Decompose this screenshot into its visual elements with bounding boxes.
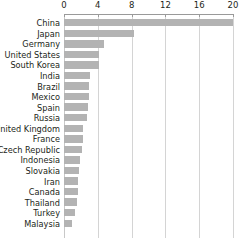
bar-row: Canada [0, 187, 240, 198]
bar [64, 19, 233, 26]
bar-row: Russia [0, 113, 240, 124]
plot-area: ChinaJapanGermanyUnited StatesSouth Kore… [0, 15, 240, 243]
bar [64, 114, 87, 121]
bar [64, 61, 99, 68]
bar [64, 82, 89, 89]
bar-row: Turkey [0, 208, 240, 219]
bar-row: Iran [0, 176, 240, 187]
bar-row: Germany [0, 39, 240, 50]
bar [64, 188, 78, 195]
category-label: Japan [37, 29, 60, 38]
bar-row: Japan [0, 29, 240, 40]
x-axis-tick-mark [64, 14, 65, 17]
category-label: Russia [34, 114, 60, 123]
bar [64, 167, 79, 174]
bar-row: Slovakia [0, 166, 240, 177]
bar [64, 125, 83, 132]
bar-row: Mexico [0, 92, 240, 103]
category-label: China [37, 19, 60, 28]
category-label: South Korea [10, 61, 60, 70]
category-label: Malaysia [24, 219, 60, 228]
x-axis-tick-label: 20 [228, 0, 239, 10]
x-axis-tick-mark [98, 14, 99, 17]
bar [64, 156, 80, 163]
category-label: Iran [44, 177, 60, 186]
category-label: France [33, 135, 60, 144]
x-axis-tick-mark [132, 14, 133, 17]
x-axis-tick-label: 0 [61, 0, 66, 10]
bar-row: China [0, 18, 240, 29]
x-axis-tick-label: 8 [129, 0, 134, 10]
bar-row: Indonesia [0, 155, 240, 166]
category-label: Canada [29, 188, 60, 197]
bar-row: United States [0, 50, 240, 61]
category-label: Indonesia [20, 156, 60, 165]
x-axis-tick-mark [233, 14, 234, 17]
category-label: Turkey [33, 209, 60, 218]
x-axis-tick-mark [199, 14, 200, 17]
bar-row: South Korea [0, 60, 240, 71]
bar [64, 103, 88, 110]
bar [64, 30, 134, 37]
bar [64, 72, 90, 79]
x-axis-tick-label: 4 [95, 0, 100, 10]
category-label: Mexico [31, 93, 60, 102]
x-axis-tick-mark [165, 14, 166, 17]
bar [64, 220, 72, 227]
bar [64, 209, 75, 216]
bar-row: Brazil [0, 81, 240, 92]
bar [64, 93, 89, 100]
bar-row: Spain [0, 102, 240, 113]
category-label: Thailand [25, 198, 60, 207]
bar-row: India [0, 71, 240, 82]
category-label: Spain [37, 103, 60, 112]
x-axis-tick-label: 16 [194, 0, 205, 10]
x-axis-tick-label: 12 [160, 0, 171, 10]
category-label: India [40, 72, 60, 81]
category-label: Czech Republic [0, 145, 60, 154]
bar [64, 146, 82, 153]
bar-row: Thailand [0, 197, 240, 208]
category-label: Brazil [37, 82, 60, 91]
bar [64, 40, 104, 47]
bar [64, 177, 78, 184]
bar [64, 135, 83, 142]
category-label: Slovakia [26, 166, 60, 175]
bar-row: Czech Republic [0, 145, 240, 156]
category-label: United Kingdom [0, 124, 60, 133]
bar-row: France [0, 134, 240, 145]
bar-row: Malaysia [0, 218, 240, 229]
category-label: Germany [22, 40, 60, 49]
bar-row: United Kingdom [0, 124, 240, 135]
category-label: United States [5, 50, 60, 59]
bar-chart: 048121620 ChinaJapanGermanyUnited States… [0, 0, 240, 248]
bar [64, 51, 99, 58]
bar [64, 198, 77, 205]
x-axis-tick-labels: 048121620 [0, 0, 240, 14]
